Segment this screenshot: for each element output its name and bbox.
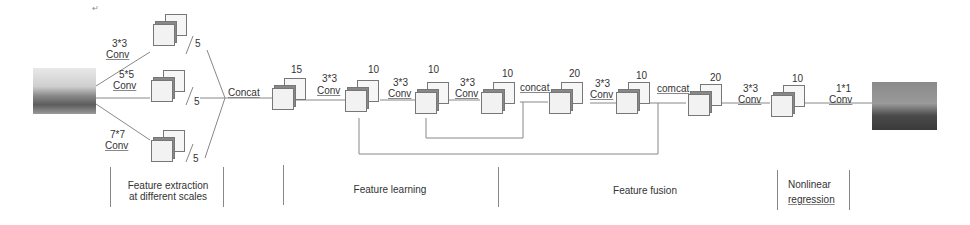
edge-5-kernel: 3*3 [595, 79, 610, 89]
edge-4-concat: concat [520, 83, 549, 93]
edge-7-kernel: 3*3 [743, 84, 758, 94]
block-8 [771, 85, 805, 117]
block-2 [345, 80, 379, 112]
section-nonlinear-line1: Nonlinear [788, 179, 848, 190]
branch-3-channels: 5 [193, 153, 199, 164]
section-nonlinear-line2: regression [788, 194, 848, 205]
branch-2-feature-maps [151, 70, 185, 102]
output-image [872, 82, 937, 130]
edge-8-kernel: 1*1 [836, 84, 851, 94]
block-3-channels: 10 [428, 64, 439, 75]
block-3 [415, 82, 449, 114]
branch-1-kernel: 3*3 [112, 39, 127, 49]
block-4-channels: 10 [502, 68, 513, 79]
edge-6-comcat: comcat [657, 84, 689, 94]
block-5 [549, 82, 583, 114]
block-2-channels: 10 [368, 64, 379, 75]
block-1 [272, 78, 306, 110]
section-nonlinear-regression: Nonlinear regression [788, 179, 848, 205]
block-6-channels: 10 [636, 70, 647, 81]
separator [223, 167, 224, 207]
edge-5-op: Conv [590, 90, 613, 100]
branch-2-kernel: 5*5 [119, 70, 134, 80]
edge-3-op: Conv [455, 89, 478, 99]
concat-label: Concat [228, 88, 260, 98]
branch-3-feature-maps [151, 130, 185, 162]
branch-2-op: Conv [113, 81, 136, 91]
section-feature-extraction-line2: at different scales [118, 191, 218, 202]
separator [283, 165, 284, 205]
edge-3-kernel: 3*3 [460, 78, 475, 88]
input-image [33, 68, 96, 114]
edge-1-op: Conv [317, 86, 340, 96]
edge-1-kernel: 3*3 [322, 74, 337, 84]
section-feature-learning: Feature learning [325, 184, 455, 195]
section-feature-fusion: Feature fusion [580, 185, 710, 196]
separator [849, 170, 850, 210]
branch-1-channels: 5 [195, 38, 201, 49]
separator [110, 167, 111, 207]
separator [777, 170, 778, 210]
paragraph-mark: ↵ [92, 4, 99, 13]
block-4 [481, 82, 515, 114]
branch-1-op: Conv [106, 50, 129, 60]
block-8-channels: 10 [792, 73, 803, 84]
section-feature-extraction-line1: Feature extraction [118, 180, 218, 191]
edge-2-op: Conv [388, 89, 411, 99]
branch-3-op: Conv [105, 141, 128, 151]
section-feature-extraction: Feature extraction at different scales [118, 180, 218, 202]
block-1-channels: 15 [291, 64, 302, 75]
separator [498, 167, 499, 207]
edge-8-op: Conv [829, 95, 852, 105]
branch-2-channels: 5 [194, 96, 200, 107]
block-7-channels: 20 [710, 72, 721, 83]
block-6 [616, 82, 650, 114]
edge-7-op: Conv [738, 95, 761, 105]
block-5-channels: 20 [569, 68, 580, 79]
block-7 [688, 84, 722, 116]
edge-2-kernel: 3*3 [393, 78, 408, 88]
branch-1-feature-maps [153, 14, 187, 46]
branch-3-kernel: 7*7 [110, 130, 125, 140]
